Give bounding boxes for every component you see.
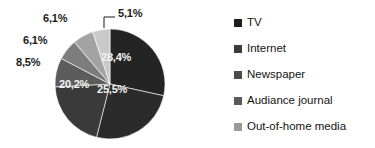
pie-slice-label: 6,1% <box>43 13 67 24</box>
legend-swatch-icon <box>234 19 242 27</box>
pie-slice-label: 5,1% <box>118 8 142 19</box>
pie-slice-label: 6,1% <box>23 35 47 46</box>
pie-svg <box>0 0 190 148</box>
pie-plot-area: 28,4%25,5%20,2%8,5%6,1%6,1%5,1% <box>0 0 190 148</box>
chart-legend: TVInternetNewspaperAudiance journalOut-o… <box>234 16 375 142</box>
legend-item[interactable]: Newspaper <box>234 68 305 82</box>
legend-item[interactable]: Out-of-home media <box>234 120 346 134</box>
legend-item[interactable]: Internet <box>234 42 286 56</box>
legend-item-label: Internet <box>247 43 286 55</box>
legend-item-label: Out-of-home media <box>247 121 346 133</box>
pie-slice-label: 25,5% <box>97 84 127 95</box>
legend-item-label: TV <box>247 17 262 29</box>
legend-swatch-icon <box>234 123 242 131</box>
legend-item[interactable]: Audiance journal <box>234 94 333 108</box>
legend-swatch-icon <box>234 71 242 79</box>
legend-swatch-icon <box>234 97 242 105</box>
pie-chart-figure: 28,4%25,5%20,2%8,5%6,1%6,1%5,1% TVIntern… <box>0 0 375 148</box>
pie-leader-lines <box>104 17 115 28</box>
leader-line-icon <box>104 17 115 28</box>
pie-slice-label: 28,4% <box>101 52 131 63</box>
pie-slice-label: 20,2% <box>59 79 89 90</box>
pie-slice-label: 8,5% <box>16 57 40 68</box>
legend-item-label: Audiance journal <box>247 95 333 107</box>
legend-item-label: Newspaper <box>247 69 305 81</box>
legend-swatch-icon <box>234 45 242 53</box>
legend-item[interactable]: TV <box>234 16 262 30</box>
